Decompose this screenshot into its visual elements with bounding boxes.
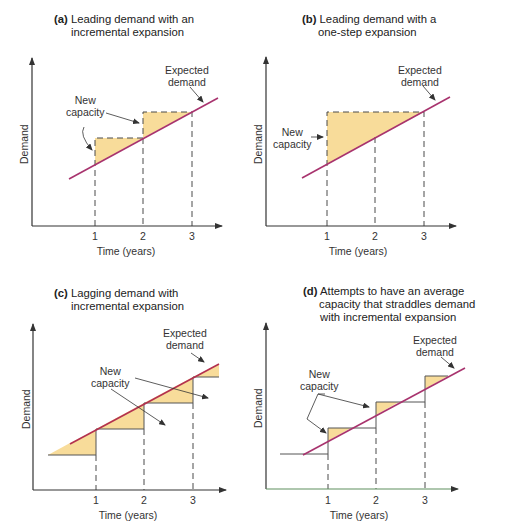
new-capacity-label-d-line2: capacity xyxy=(300,380,339,392)
expected-demand-label-c: Expected demand xyxy=(163,327,207,351)
expected-demand-label-d: Expected demand xyxy=(413,334,457,358)
expected-demand-label-a-line2: demand xyxy=(168,76,206,88)
panel-b-title: (b) Leading demand with a one-step expan… xyxy=(302,13,436,39)
x-tick-c-2: 2 xyxy=(141,494,147,506)
x-tick-b-1: 1 xyxy=(324,230,330,242)
x-axis-label-c: Time (years) xyxy=(99,509,158,521)
expected-demand-label-b-line2: demand xyxy=(401,76,439,88)
new-capacity-label-b-line1: New xyxy=(282,126,303,138)
panel-a-letter: (a) xyxy=(54,13,68,25)
y-axis-label-b: Demand xyxy=(252,124,264,164)
panel-a-title-line2: incremental expansion xyxy=(54,26,184,38)
panel-c-letter: (c) xyxy=(54,287,68,299)
panel-d-title: (d) Attempts to have an average capacity… xyxy=(303,285,475,324)
x-tick-a-2: 2 xyxy=(140,230,146,242)
panel-d-title-line2: capacity that straddles demand xyxy=(303,298,475,310)
panel-b-letter: (b) xyxy=(302,13,316,25)
expected-demand-label-c-line1: Expected xyxy=(163,327,207,339)
y-axis-label-d: Demand xyxy=(252,388,264,428)
capacity-dashes-a xyxy=(95,112,192,226)
x-axis-label-d: Time (years) xyxy=(330,509,389,521)
x-tick-c-1: 1 xyxy=(93,494,99,506)
new-capacity-label-a-line1: New xyxy=(75,94,96,106)
new-capacity-label-b: New capacity xyxy=(273,126,312,150)
panel-a-title: (a) Leading demand with an incremental e… xyxy=(54,13,194,39)
new-capacity-label-a: New capacity xyxy=(66,94,105,118)
expected-demand-label-a-line1: Expected xyxy=(165,64,209,76)
panel-d-title-line3: with incremental expansion xyxy=(303,311,456,323)
y-axis-label-a: Demand xyxy=(18,124,30,164)
new-capacity-label-c-line2: capacity xyxy=(91,377,130,389)
x-axis-label-a: Time (years) xyxy=(97,245,156,257)
x-axis-label-b: Time (years) xyxy=(329,245,388,257)
x-tick-d-1: 1 xyxy=(325,494,331,506)
expected-demand-label-b: Expected demand xyxy=(398,64,442,88)
x-tick-c-3: 3 xyxy=(190,494,196,506)
panel-c-title-line2: incremental expansion xyxy=(54,300,184,312)
panel-d-title-line1: Attempts to have an average xyxy=(320,285,464,297)
panel-b-title-line1: Leading demand with a xyxy=(320,13,437,25)
x-tick-b-2: 2 xyxy=(372,230,378,242)
expected-demand-label-a: Expected demand xyxy=(165,64,209,88)
x-tick-a-3: 3 xyxy=(189,230,195,242)
panel-d-letter: (d) xyxy=(303,285,317,297)
capacity-fill-c1 xyxy=(96,403,144,429)
x-tick-b-3: 3 xyxy=(421,230,427,242)
x-tick-d-3: 3 xyxy=(422,494,428,506)
x-tick-d-2: 2 xyxy=(373,494,379,506)
panel-c-title-line1: Lagging demand with xyxy=(71,287,178,299)
expected-demand-label-d-line2: demand xyxy=(416,346,454,358)
new-capacity-label-d-line1: New xyxy=(309,368,330,380)
new-capacity-label-a-line2: capacity xyxy=(66,106,105,118)
expected-demand-label-d-line1: Expected xyxy=(413,334,457,346)
capacity-fill-c2 xyxy=(144,377,193,403)
new-capacity-label-c-line1: New xyxy=(100,365,121,377)
panel-b-title-line2: one-step expansion xyxy=(302,26,417,38)
new-capacity-label-b-line2: capacity xyxy=(273,138,312,150)
y-axis-label-c: Demand xyxy=(20,389,32,429)
panel-c-title: (c) Lagging demand with incremental expa… xyxy=(54,287,184,313)
new-capacity-label-d: New capacity xyxy=(300,368,339,392)
expected-demand-label-b-line1: Expected xyxy=(398,64,442,76)
panel-a-title-line1: Leading demand with an xyxy=(71,13,194,25)
expected-demand-label-c-line2: demand xyxy=(166,339,204,351)
x-tick-a-1: 1 xyxy=(92,230,98,242)
demand-line-b xyxy=(302,97,450,178)
new-capacity-label-c: New capacity xyxy=(91,365,130,389)
